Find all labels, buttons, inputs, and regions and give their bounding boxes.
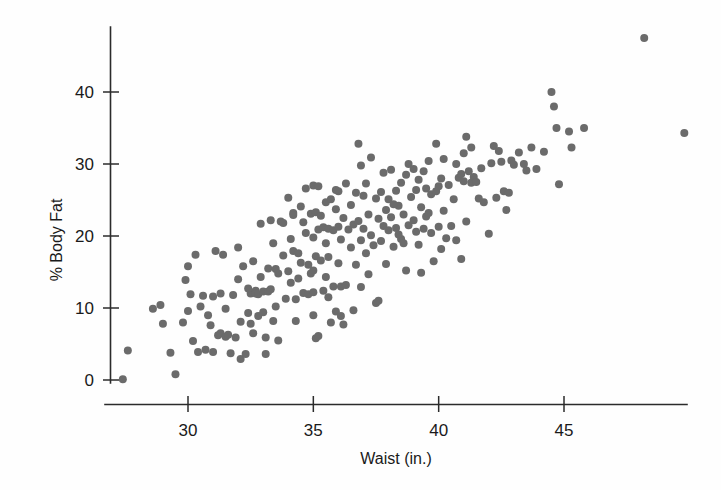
data-point [390, 243, 398, 251]
data-point [309, 267, 317, 275]
data-point [327, 318, 335, 326]
data-point [204, 311, 212, 319]
data-point [472, 178, 480, 186]
data-point [432, 140, 440, 148]
y-axis-title: % Body Fat [48, 198, 65, 281]
data-point [580, 124, 588, 132]
data-point [412, 186, 420, 194]
data-point [680, 129, 688, 137]
data-point [430, 257, 438, 265]
data-point [460, 177, 468, 185]
data-point [415, 176, 423, 184]
data-point [420, 225, 428, 233]
data-point [297, 259, 305, 267]
x-tick-label: 40 [429, 421, 448, 440]
data-point [294, 249, 302, 257]
data-point [244, 285, 252, 293]
data-point [410, 165, 418, 173]
data-point [402, 267, 410, 275]
data-point [297, 202, 305, 210]
data-point [279, 219, 287, 227]
data-point [497, 158, 505, 166]
data-point [417, 269, 425, 277]
data-point [367, 231, 375, 239]
data-point [397, 179, 405, 187]
data-point [334, 259, 342, 267]
data-point [550, 102, 558, 110]
data-point [209, 348, 217, 356]
data-point [450, 195, 458, 203]
data-point [279, 251, 287, 259]
data-point [555, 180, 563, 188]
data-point [274, 336, 282, 344]
data-point [359, 192, 367, 200]
data-point [287, 279, 295, 287]
data-point [364, 210, 372, 218]
data-point [467, 143, 475, 151]
data-point [354, 140, 362, 148]
data-point [417, 203, 425, 211]
data-point [427, 229, 435, 237]
data-point [269, 317, 277, 325]
data-point [242, 350, 250, 358]
data-point [357, 236, 365, 244]
data-point [192, 251, 200, 259]
data-point [194, 348, 202, 356]
data-point [166, 349, 174, 357]
data-point [309, 311, 317, 319]
data-point [332, 186, 340, 194]
data-point [156, 301, 164, 309]
data-point [292, 317, 300, 325]
y-tick-label: 0 [85, 371, 94, 390]
data-point [337, 236, 345, 244]
data-point [294, 274, 302, 282]
data-point [485, 230, 493, 238]
data-point [309, 288, 317, 296]
data-point [119, 375, 127, 383]
data-point [267, 285, 275, 293]
data-point [420, 167, 428, 175]
data-point [457, 255, 465, 263]
data-point [332, 205, 340, 213]
data-point [244, 309, 252, 317]
data-point [487, 159, 495, 167]
data-point [372, 195, 380, 203]
data-point [387, 213, 395, 221]
data-point [274, 269, 282, 277]
data-point [124, 346, 132, 354]
data-point [502, 206, 510, 214]
data-point [437, 174, 445, 182]
data-point [302, 229, 310, 237]
data-point [289, 211, 297, 219]
data-point [407, 193, 415, 201]
data-point [339, 214, 347, 222]
data-point [267, 216, 275, 224]
data-point [232, 334, 240, 342]
data-point [292, 295, 300, 303]
data-point [377, 188, 385, 196]
data-point [269, 239, 277, 247]
data-point [207, 321, 215, 329]
data-point [437, 245, 445, 253]
data-point [532, 165, 540, 173]
data-point [319, 287, 327, 295]
data-point [385, 226, 393, 234]
data-point [317, 256, 325, 264]
data-point [362, 249, 370, 257]
data-point [219, 251, 227, 259]
data-point [249, 257, 257, 265]
data-point [317, 212, 325, 220]
data-point [212, 247, 220, 255]
data-point [322, 239, 330, 247]
data-point [415, 241, 423, 249]
data-point [222, 305, 230, 313]
data-point [197, 303, 205, 311]
data-point [357, 283, 365, 291]
data-point [347, 244, 355, 252]
data-point [234, 275, 242, 283]
data-point [337, 312, 345, 320]
data-point [522, 166, 530, 174]
data-point [435, 223, 443, 231]
data-point [382, 206, 390, 214]
data-point [339, 321, 347, 329]
